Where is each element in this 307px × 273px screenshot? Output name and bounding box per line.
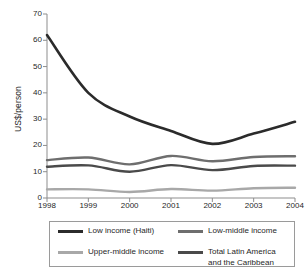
legend-low-income-haiti: Low income (Haiti) bbox=[50, 226, 170, 237]
legend-swatch-icon bbox=[58, 230, 83, 233]
chart-container: US$/person 706050403020100 1998199920002… bbox=[0, 0, 307, 273]
legend-label: Low-middle income bbox=[208, 226, 277, 237]
legend-swatch-icon bbox=[58, 251, 83, 254]
legend-label: Low income (Haiti) bbox=[88, 226, 154, 237]
x-tick-label: 2000 bbox=[115, 201, 145, 210]
x-tick-label: 2001 bbox=[156, 201, 186, 210]
legend-upper-middle-income: Upper-middle income bbox=[50, 247, 170, 258]
legend-label: Upper-middle income bbox=[88, 247, 164, 258]
x-tick-label: 2004 bbox=[280, 201, 307, 210]
legend-label: Total Latin America and the Caribbean bbox=[208, 247, 276, 268]
x-tick-label: 2002 bbox=[197, 201, 227, 210]
series-line bbox=[47, 165, 295, 172]
chart-legend: Low income (Haiti)Low-middle incomeUpper… bbox=[49, 221, 295, 267]
legend-swatch-icon bbox=[178, 251, 203, 254]
series-line bbox=[47, 156, 295, 164]
x-tick-label: 2003 bbox=[239, 201, 269, 210]
legend-total-lac: Total Latin America and the Caribbean bbox=[170, 247, 296, 268]
series-line bbox=[47, 188, 295, 192]
series-line bbox=[47, 35, 295, 144]
legend-low-middle-income: Low-middle income bbox=[170, 226, 296, 237]
x-tick-label: 1999 bbox=[73, 201, 103, 210]
legend-swatch-icon bbox=[178, 230, 203, 233]
x-tick-label: 1998 bbox=[32, 201, 62, 210]
